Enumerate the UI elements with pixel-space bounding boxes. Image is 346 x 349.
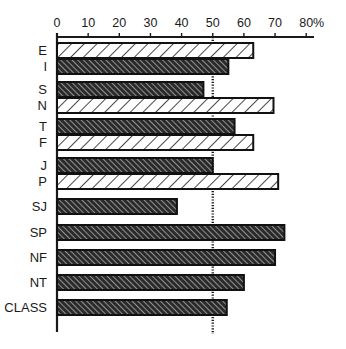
category-labels: EISNTFJPSJSPNFNTCLASS	[4, 43, 47, 315]
x-tick-label: 30	[143, 16, 157, 30]
category-label-sp: SP	[30, 225, 47, 240]
x-unit-label: %	[313, 16, 324, 30]
bars	[57, 43, 284, 315]
category-label-t: T	[39, 119, 47, 134]
bar-sp	[57, 225, 284, 240]
bar-i	[57, 59, 228, 74]
category-label-nf: NF	[30, 250, 47, 265]
category-label-s: S	[38, 82, 47, 97]
x-tick-label: 10	[81, 16, 95, 30]
x-tick-label: 60	[237, 16, 251, 30]
bar-f	[57, 135, 253, 150]
bar-nf	[57, 250, 275, 265]
bar-n	[57, 98, 273, 113]
bar-s	[57, 82, 203, 97]
category-label-n: N	[38, 98, 47, 113]
bar-p	[57, 174, 278, 189]
category-label-f: F	[39, 135, 47, 150]
category-label-e: E	[38, 43, 47, 58]
x-tick-label: 40	[175, 16, 189, 30]
bar-nt	[57, 275, 244, 290]
x-tick-label: 0	[54, 16, 61, 30]
x-tick-label: 20	[112, 16, 126, 30]
bar-e	[57, 43, 253, 58]
category-label-sj: SJ	[32, 199, 47, 214]
x-tick-label: 80	[299, 16, 313, 30]
bar-chart: 01020304050607080% EISNTFJPSJSPNFNTCLASS	[0, 0, 346, 349]
bar-sj	[57, 199, 177, 214]
category-label-i: I	[43, 59, 47, 74]
bar-j	[57, 158, 213, 173]
category-label-j: J	[41, 158, 48, 173]
bar-t	[57, 119, 235, 134]
category-label-p: P	[38, 174, 47, 189]
category-label-nt: NT	[30, 275, 47, 290]
x-tick-label: 70	[268, 16, 282, 30]
x-tick-label: 50	[206, 16, 220, 30]
category-label-class: CLASS	[4, 300, 47, 315]
bar-class	[57, 300, 227, 315]
